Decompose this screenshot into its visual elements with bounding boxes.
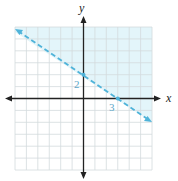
x-axis-left-arrow-icon: [5, 96, 12, 102]
y-axis-label: y: [79, 2, 84, 14]
y-intercept-label: 2: [74, 79, 80, 90]
y-intercept-point: [82, 73, 86, 77]
y-axis-up-arrow-icon: [81, 16, 87, 23]
graph-canvas: [0, 0, 178, 181]
x-axis-label: x: [166, 92, 171, 104]
x-intercept-point: [116, 97, 120, 101]
x-axis-right-arrow-icon: [154, 96, 161, 102]
x-intercept-label: 3: [109, 102, 115, 113]
y-axis-down-arrow-icon: [81, 172, 87, 179]
